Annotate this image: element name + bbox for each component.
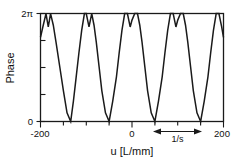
arrow-head-left — [153, 129, 161, 135]
y-axis-minor-ticks — [41, 41, 46, 95]
plot-canvas: 1/s 2π 0 Phase -200 0 200 u [L/mm] — [0, 0, 238, 161]
x-tick-label-right: 200 — [214, 128, 230, 139]
y-axis-title: Phase — [4, 52, 16, 83]
x-tick-label-left: -200 — [30, 128, 49, 139]
x-axis-title: u [L/mm] — [111, 145, 154, 157]
period-label: 1/s — [171, 134, 184, 144]
phase-curve — [41, 14, 224, 122]
y-tick-label-top: 2π — [21, 8, 33, 19]
y-tick-label-bottom: 0 — [28, 116, 33, 127]
arrow-head-right — [194, 129, 202, 135]
x-tick-label-mid: 0 — [129, 128, 134, 139]
x-axis-major-ticks — [41, 122, 224, 128]
period-annotation: 1/s — [153, 129, 202, 144]
phase-vs-u-figure: 1/s 2π 0 Phase -200 0 200 u [L/mm] — [0, 0, 238, 161]
